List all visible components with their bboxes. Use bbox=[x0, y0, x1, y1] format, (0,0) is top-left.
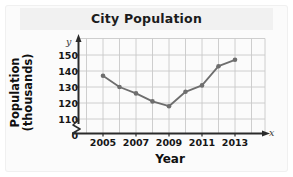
axis-lines bbox=[72, 34, 270, 137]
data-point-2008 bbox=[150, 99, 155, 104]
data-point-2005 bbox=[101, 74, 106, 79]
data-point-2010 bbox=[183, 90, 188, 95]
gridlines bbox=[76, 39, 266, 137]
data-point-2013 bbox=[233, 58, 238, 63]
chart-screenshot: City Population Population (thousands) Y… bbox=[0, 0, 293, 177]
plot-area bbox=[0, 0, 293, 177]
data-point-2007 bbox=[134, 91, 139, 96]
data-point-2006 bbox=[117, 85, 122, 90]
data-point-2011 bbox=[200, 83, 205, 88]
data-point-2012 bbox=[216, 64, 221, 69]
data-point-2009 bbox=[167, 104, 172, 109]
